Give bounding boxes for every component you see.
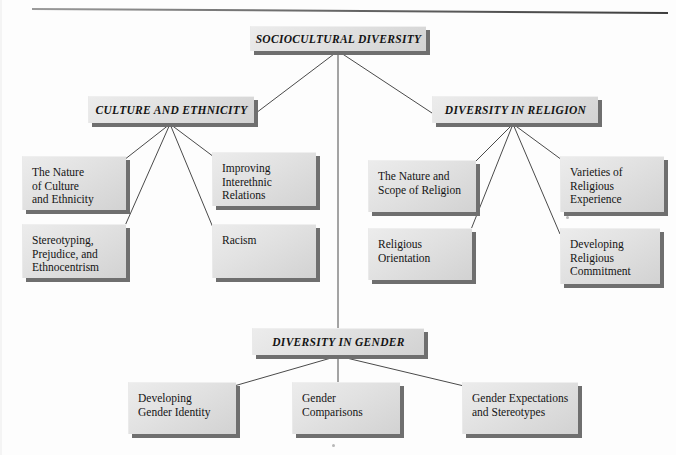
node-developing-gender-identity[interactable]: Developing Gender Identity (128, 382, 236, 434)
node-diversity-in-gender[interactable]: DIVERSITY IN GENDER (252, 328, 424, 355)
node-culture-and-ethnicity[interactable]: CULTURE AND ETHNICITY (88, 96, 254, 123)
node-nature-and-scope-of-religion[interactable]: The Nature and Scope of Religion (368, 160, 476, 212)
node-nature-of-culture-and-ethnicity[interactable]: The Nature of Culture and Ethnicity (22, 156, 126, 210)
node-gender-comparisons[interactable]: Gender Comparisons (292, 382, 400, 434)
scan-speck (332, 444, 335, 447)
node-label: SOCIOCULTURAL DIVERSITY (256, 33, 422, 45)
node-label: Gender Expectations and Stereotypes (472, 392, 570, 419)
connector-religion-to-orientation (470, 124, 513, 232)
connector-root-to-culture (256, 51, 338, 113)
node-racism[interactable]: Racism (212, 224, 316, 278)
node-developing-religious-commitment[interactable]: Developing Religious Commitment (560, 228, 660, 284)
scan-speck (566, 216, 569, 219)
connector-religion-to-nature-scope (474, 124, 513, 163)
node-label: Improving Interethnic Relations (222, 162, 308, 203)
node-gender-expectations-and-stereotypes[interactable]: Gender Expectations and Stereotypes (462, 382, 578, 434)
node-label: Racism (222, 234, 308, 248)
node-label: Gender Comparisons (302, 392, 392, 419)
node-label: Varieties of Religious Experience (570, 166, 656, 207)
node-label: The Nature of Culture and Ethnicity (32, 166, 118, 207)
node-label: Religious Orientation (378, 238, 464, 265)
node-improving-interethnic-relations[interactable]: Improving Interethnic Relations (212, 152, 316, 206)
connector-root-to-religion (338, 51, 432, 113)
node-label: DIVERSITY IN RELIGION (445, 104, 586, 116)
diagram-page: SOCIOCULTURAL DIVERSITY CULTURE AND ETHN… (0, 0, 676, 455)
node-label: Stereotyping, Prejudice, and Ethnocentri… (32, 234, 118, 275)
node-stereotyping-prejudice-ethnocentrism[interactable]: Stereotyping, Prejudice, and Ethnocentri… (22, 224, 126, 278)
connector-religion-to-commitment (513, 124, 560, 234)
node-varieties-of-religious-experience[interactable]: Varieties of Religious Experience (560, 156, 664, 212)
node-label: Developing Gender Identity (138, 392, 228, 419)
connector-culture-to-nature (124, 124, 170, 160)
node-label: CULTURE AND ETHNICITY (96, 104, 248, 116)
connector-culture-to-stereotyping (124, 124, 170, 228)
node-religious-orientation[interactable]: Religious Orientation (368, 228, 472, 280)
node-label: DIVERSITY IN GENDER (272, 336, 404, 348)
node-diversity-in-religion[interactable]: DIVERSITY IN RELIGION (432, 96, 598, 123)
node-label: Developing Religious Commitment (570, 238, 652, 279)
node-label: The Nature and Scope of Religion (378, 170, 468, 197)
node-sociocultural-diversity[interactable]: SOCIOCULTURAL DIVERSITY (250, 26, 426, 51)
